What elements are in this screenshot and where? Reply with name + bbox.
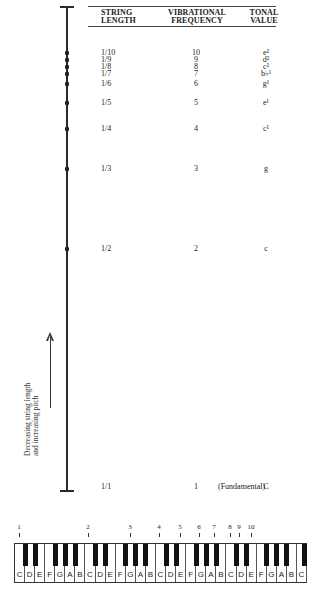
black-key (103, 544, 108, 566)
key-label: G (126, 571, 135, 579)
key-label: B (146, 571, 155, 579)
header-vibrational-frequency: VIBRATIONAL FREQUENCY (166, 9, 228, 25)
black-key (73, 544, 78, 566)
axis-dot (65, 247, 69, 251)
key-label: C (297, 571, 306, 579)
harmonic-tick (88, 533, 89, 537)
key-label: D (237, 571, 246, 579)
harmonic-number: 2 (82, 524, 94, 531)
header-tonal-value: TONAL VALUE (248, 9, 280, 25)
axis-dot (65, 72, 69, 76)
axis-dot (65, 127, 69, 131)
key-label: F (45, 571, 54, 579)
key-label: C (15, 571, 24, 579)
tonal-value: b♭¹ (256, 70, 276, 78)
key-label: D (25, 571, 34, 579)
key-label: G (196, 571, 205, 579)
axis-dot (65, 51, 69, 55)
key-label: A (206, 571, 215, 579)
harmonic-number: 5 (174, 524, 186, 531)
black-key (174, 544, 179, 566)
black-key (53, 544, 58, 566)
axis-dot (65, 101, 69, 105)
tonal-value: c¹ (256, 125, 276, 133)
frequency-value: 2 (186, 245, 206, 253)
harmonic-tick (199, 533, 200, 537)
black-key (123, 544, 128, 566)
black-key (194, 544, 199, 566)
frequency-value: 7 (186, 70, 206, 78)
harmonic-number: 10 (245, 524, 257, 531)
axis-dot (65, 65, 69, 69)
harmonic-tick (239, 533, 240, 537)
black-key (274, 544, 279, 566)
axis-label-line: and increasing pitch (32, 383, 40, 456)
key-label: C (156, 571, 165, 579)
harmonic-number: 7 (208, 524, 220, 531)
black-key (244, 544, 249, 566)
black-key (284, 544, 289, 566)
harmonic-number: 9 (233, 524, 245, 531)
arrow-shaft (50, 334, 51, 408)
piano-keyboard: CDEFGABCDEFGABCDEFGABCDEFGABC (14, 543, 307, 583)
harmonic-tick (214, 533, 215, 537)
header-rule-top (88, 6, 276, 7)
key-label: A (65, 571, 74, 579)
key-label: B (216, 571, 225, 579)
key-label: A (277, 571, 286, 579)
tonal-value: g (256, 165, 276, 173)
key-label: D (96, 571, 105, 579)
axis-label: Decreasing string length and increasing … (24, 383, 40, 456)
key-label: B (75, 571, 84, 579)
black-key (23, 544, 28, 566)
axis-dot (65, 167, 69, 171)
harmonic-tick (230, 533, 231, 537)
black-key (234, 544, 239, 566)
harmonic-number: 1 (13, 524, 25, 531)
header-line: LENGTH (101, 17, 136, 25)
harmonic-tick (180, 533, 181, 537)
string-length-value: 1/3 (101, 165, 111, 173)
fundamental-note: (Fundamental) (218, 483, 265, 491)
key-label: A (136, 571, 145, 579)
string-length-value: 1/1 (101, 483, 111, 491)
axis-bottom-cap (60, 490, 74, 492)
tonal-value: c (256, 245, 276, 253)
harmonic-number: 4 (153, 524, 165, 531)
black-key (164, 544, 169, 566)
key-label: C (226, 571, 235, 579)
header-line: FREQUENCY (166, 17, 228, 25)
harmonic-number: 6 (193, 524, 205, 531)
harmonic-number: 3 (124, 524, 136, 531)
string-length-value: 1/6 (101, 80, 111, 88)
black-key (63, 544, 68, 566)
key-label: F (186, 571, 195, 579)
frequency-value: 1 (186, 483, 206, 491)
string-length-value: 1/7 (101, 70, 111, 78)
harmonic-tick (159, 533, 160, 537)
key-label: C (85, 571, 94, 579)
harmonic-tick (19, 533, 20, 537)
black-key (93, 544, 98, 566)
key-label: D (166, 571, 175, 579)
key-label: G (55, 571, 64, 579)
key-label: E (176, 571, 185, 579)
string-length-value: 1/4 (101, 125, 111, 133)
tonal-value: g¹ (256, 80, 276, 88)
black-key (302, 544, 307, 566)
key-label: B (287, 571, 296, 579)
string-length-value: 1/5 (101, 99, 111, 107)
header-string-length: STRING LENGTH (101, 9, 136, 25)
key-label: E (35, 571, 44, 579)
black-key (33, 544, 38, 566)
key-label: F (257, 571, 266, 579)
frequency-value: 3 (186, 165, 206, 173)
black-key (204, 544, 209, 566)
tonal-value: e¹ (256, 99, 276, 107)
black-key (214, 544, 219, 566)
header-line: VALUE (248, 17, 280, 25)
axis-dot (65, 58, 69, 62)
harmonic-tick (251, 533, 252, 537)
frequency-value: 5 (186, 99, 206, 107)
frequency-value: 4 (186, 125, 206, 133)
